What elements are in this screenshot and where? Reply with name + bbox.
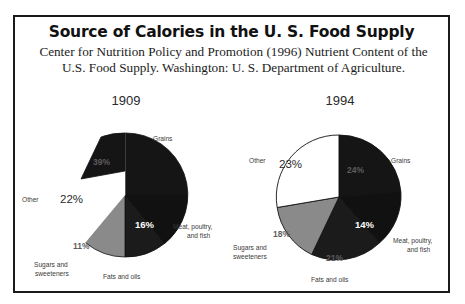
- pie-chart-1994: 1994: [231, 93, 449, 291]
- label-meat-1909-line1: Meat, poultry,: [173, 223, 212, 231]
- slice-other-1994: [276, 135, 339, 208]
- label-sugars-1909-line2: sweeteners: [35, 270, 69, 278]
- label-meat-1909-line2: and fish: [187, 232, 210, 240]
- label-other-1994: Other: [249, 157, 266, 165]
- label-sugars-1909-line1: Sugars and: [34, 261, 68, 269]
- label-fats-1909: Fats and oils: [103, 273, 140, 281]
- subtitle-line-2: U.S. Food Supply. Washington: U. S. Depa…: [29, 60, 438, 76]
- label-other-1909: Other: [22, 196, 39, 204]
- pct-grains-1994: 24%: [347, 165, 364, 175]
- pct-other-1909: 22%: [60, 193, 83, 205]
- label-grains-1909: Grains: [153, 135, 172, 143]
- chart-year-label-1909: 1909: [17, 93, 235, 108]
- label-sugars-1994-line2: sweeteners: [233, 253, 267, 261]
- label-meat-1994-line2: and fish: [407, 246, 430, 254]
- label-fats-1994: Fats and oils: [311, 276, 348, 284]
- chart-year-label-1994: 1994: [231, 93, 449, 108]
- subtitle-line-1: Center for Nutrition Policy and Promotio…: [29, 44, 438, 60]
- pct-sugars-1994: 18%: [273, 229, 290, 239]
- figure-root: Source of Calories in the U. S. Food Sup…: [0, 0, 465, 304]
- label-sugars-1994-line1: Sugars and: [233, 244, 267, 252]
- pct-fats-1994: 21%: [326, 253, 343, 263]
- pct-other-1994: 23%: [279, 158, 302, 170]
- label-grains-1994: Grains: [391, 157, 410, 165]
- pct-meat-1994: 14%: [355, 219, 374, 230]
- label-meat-1994-line1: Meat, poultry,: [393, 237, 432, 245]
- pie-area-1909: 39% 16% 11% 22% Other Grains Meat, poult…: [17, 113, 235, 289]
- figure-subtitle: Center for Nutrition Policy and Promotio…: [29, 44, 438, 75]
- pie-chart-1909: 1909: [17, 93, 235, 291]
- pie-area-1994: 24% 14% 18% 21% 23% Other Grains Meat, p…: [231, 113, 449, 289]
- figure-frame: Source of Calories in the U. S. Food Sup…: [13, 15, 450, 293]
- figure-title: Source of Calories in the U. S. Food Sup…: [15, 23, 448, 41]
- pct-grains-1909: 39%: [93, 157, 110, 167]
- pct-sugars-1909: 11%: [73, 241, 90, 251]
- pct-meat-1909: 16%: [135, 219, 154, 230]
